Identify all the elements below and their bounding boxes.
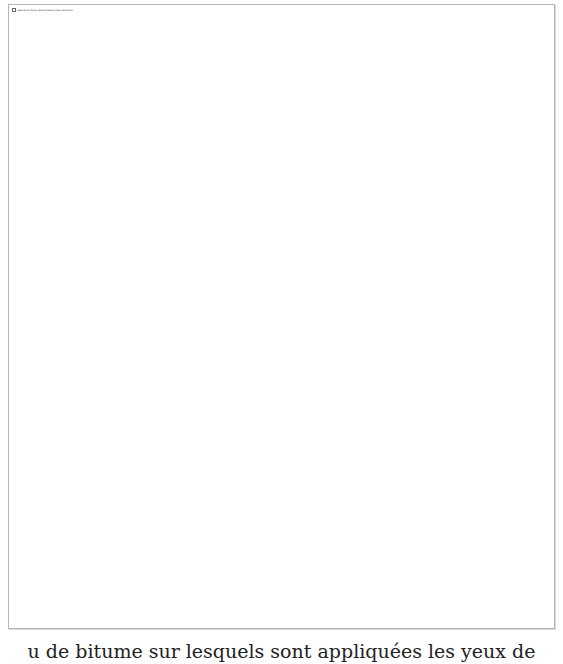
- checkbox-icon: [12, 8, 16, 12]
- figure-frame: Légende de figure (texte illisible à cet…: [8, 4, 555, 629]
- figure-caption: Légende de figure (texte illisible à cet…: [12, 8, 73, 12]
- body-text-line: u de bitume sur lesquels sont appliquées…: [0, 638, 563, 664]
- figure-caption-text: Légende de figure (texte illisible à cet…: [17, 9, 73, 12]
